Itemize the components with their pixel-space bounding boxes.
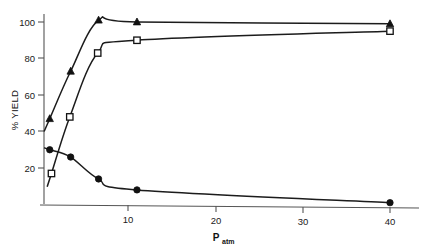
x-axis-title-subscript: atm [222,238,234,245]
data-point-filled-circle [47,147,53,153]
data-point-open-square [67,114,73,120]
data-point-open-square [48,170,54,176]
x-axis-title-main: P [213,232,220,243]
y-axis-title: % YIELD [9,90,20,130]
x-tick-group: 10 20 30 40 [123,205,396,227]
y-tick-group: 100 80 60 40 20 [19,17,44,174]
x-axis-title: P atm [213,232,235,245]
data-point-open-square [387,28,393,34]
data-point-filled-circle [387,199,393,205]
x-tick-label-10: 10 [123,214,134,225]
curve-filled-triangle-series [44,17,390,132]
data-point-filled-circle [95,176,101,182]
y-tick-label-40: 40 [24,126,35,137]
data-point-filled-triangle [67,67,74,74]
data-point-filled-triangle [46,115,53,122]
y-tick-label-20: 20 [24,163,35,174]
x-axis-line [40,205,419,208]
y-tick-label-100: 100 [19,17,35,28]
data-point-filled-circle [67,154,73,160]
yield-vs-pressure-chart: 100 80 60 40 20 10 20 30 40 % YIELD P at… [0,0,425,248]
x-tick-label-40: 40 [385,216,396,227]
data-point-filled-circle [134,187,140,193]
data-point-open-square [134,37,140,43]
x-tick-label-30: 30 [298,216,309,227]
curve-filled-circle-series [44,148,390,203]
y-tick-label-80: 80 [24,53,35,64]
y-axis-title-text: % YIELD [9,90,20,130]
chart-figure: 100 80 60 40 20 10 20 30 40 % YIELD P at… [0,0,425,248]
data-curves-group [44,17,390,203]
data-point-open-square [95,50,101,56]
y-tick-label-60: 60 [24,90,35,101]
x-tick-label-20: 20 [211,215,222,226]
data-markers-group [46,16,394,206]
